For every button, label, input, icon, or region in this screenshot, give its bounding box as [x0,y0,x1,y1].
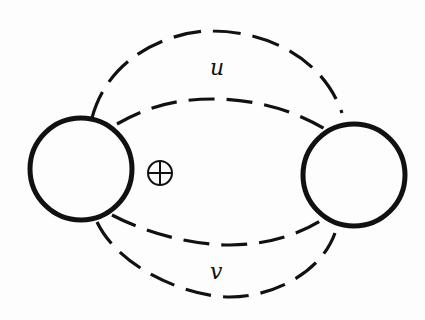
oplus-symbol [148,161,172,185]
label-v: v [210,259,223,284]
bottom-inner-dashed-line [112,215,325,245]
right-node [303,124,405,226]
left-node [30,118,132,220]
label-u: u [210,55,224,80]
feynman-diagram: u v [0,0,425,320]
top-inner-dashed-line [117,99,325,129]
